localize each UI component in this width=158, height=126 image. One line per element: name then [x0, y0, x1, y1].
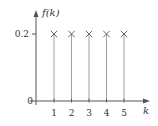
- stem-k-5: [121, 31, 127, 103]
- y-tick-label: 0.2: [15, 29, 29, 39]
- stem-k-2: [68, 31, 74, 103]
- y-axis-arrow-icon: [34, 10, 39, 17]
- x-tick-label: 1: [51, 108, 57, 118]
- x-axis-label: k: [143, 105, 149, 116]
- stem-plot: 123450.20kf(k): [0, 0, 158, 126]
- stem-k-4: [103, 31, 109, 103]
- axes: [30, 10, 150, 105]
- origin-label: 0: [27, 96, 33, 106]
- stem-k-1: [51, 31, 57, 103]
- x-tick-label: 3: [86, 108, 92, 118]
- x-axis-arrow-icon: [143, 99, 150, 104]
- y-axis-label: f(k): [41, 7, 60, 18]
- x-tick-label: 2: [69, 108, 75, 118]
- x-tick-label: 5: [121, 108, 127, 118]
- x-tick-label: 4: [104, 108, 110, 118]
- stem-k-3: [86, 31, 92, 103]
